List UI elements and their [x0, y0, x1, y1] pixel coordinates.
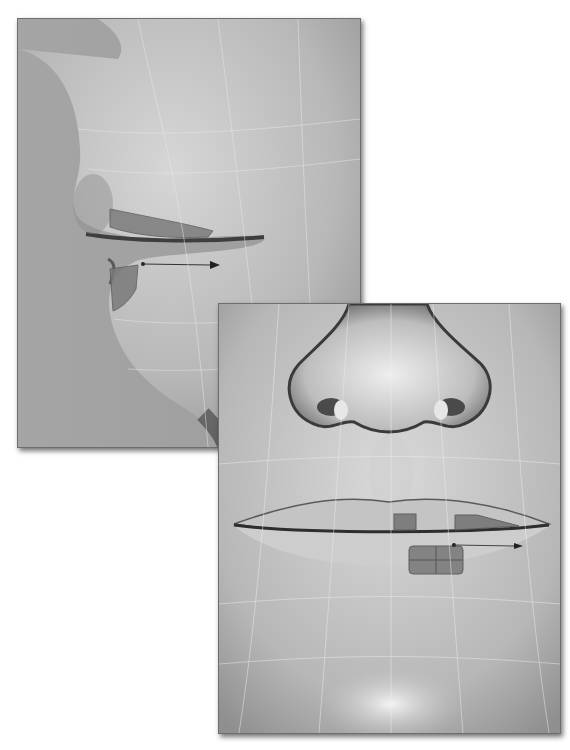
front-face-render — [219, 304, 560, 733]
front-view-viewport[interactable] — [218, 303, 561, 734]
selected-face — [394, 514, 416, 530]
